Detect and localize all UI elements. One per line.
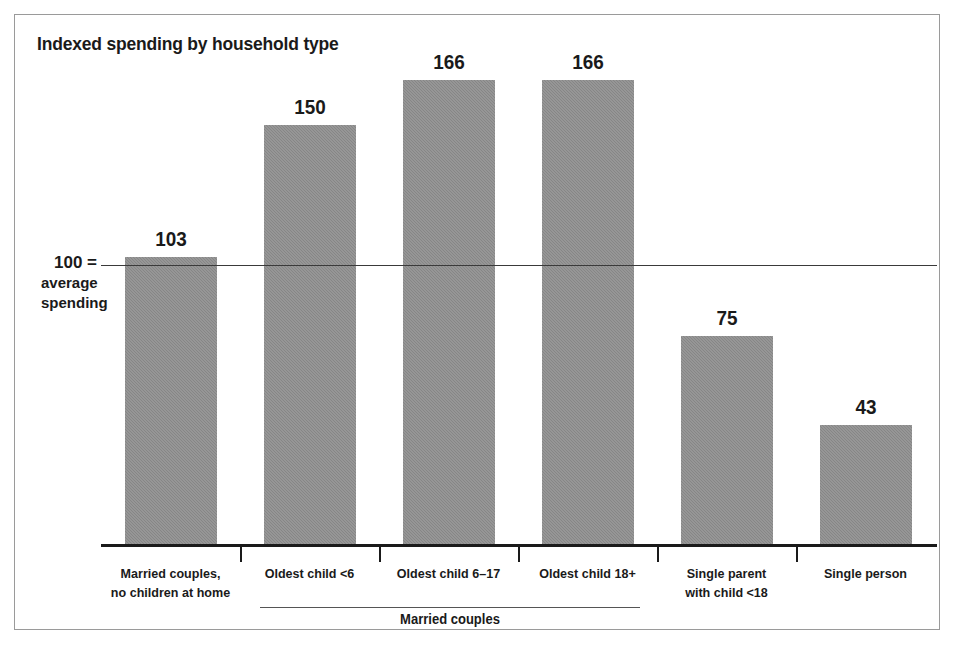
bar-single-parent[interactable] [681, 336, 773, 546]
bar-oldest-child-6-17[interactable] [403, 80, 495, 546]
axis-tick-4 [657, 547, 659, 562]
category-label-line: Single parent [662, 564, 791, 583]
axis-tick-5 [796, 547, 798, 562]
reference-label-line-2: average [41, 273, 97, 293]
reference-label-line-1: 100 = [41, 253, 97, 273]
category-label-married-no-children: Married couples, no children at home [106, 564, 235, 602]
bar-value-label: 43 [812, 395, 920, 419]
category-label-oldest-child-18-plus: Oldest child 18+ [523, 564, 652, 583]
reference-label-line-3: spending [41, 293, 97, 313]
axis-tick-3 [518, 547, 520, 562]
reference-line-label: 100 = average spending [41, 253, 97, 313]
bar-slot-2: 150 [240, 41, 379, 546]
bar-value-label: 166 [395, 50, 503, 74]
axis-tick-1 [240, 547, 242, 562]
bar-slot-3: 166 [379, 41, 518, 546]
bar-value-label: 166 [534, 50, 642, 74]
category-label-line: Oldest child <6 [245, 564, 374, 583]
category-label-line: Oldest child 18+ [523, 564, 652, 583]
reference-line-100 [101, 265, 937, 266]
axis-tick-2 [379, 547, 381, 562]
chart-frame: Indexed spending by household type 103 1… [14, 14, 940, 630]
bar-married-no-children[interactable] [125, 257, 217, 546]
group-bracket-line [260, 607, 640, 608]
bar-oldest-child-under-6[interactable] [264, 125, 356, 546]
bar-oldest-child-18-plus[interactable] [542, 80, 634, 546]
bar-slot-4: 166 [518, 41, 657, 546]
bar-single-person[interactable] [820, 425, 912, 546]
group-bracket-label: Married couples [273, 611, 626, 627]
category-label-line: Oldest child 6–17 [384, 564, 513, 583]
bar-value-label: 103 [117, 227, 225, 251]
category-label-single-parent: Single parent with child <18 [662, 564, 791, 602]
bar-value-label: 75 [673, 306, 781, 330]
category-label-line: Married couples, [106, 564, 235, 583]
category-label-oldest-child-6-17: Oldest child 6–17 [384, 564, 513, 583]
plot-area: 103 150 166 166 75 43 [101, 41, 933, 546]
category-label-line: Single person [801, 564, 930, 583]
category-label-single-person: Single person [801, 564, 930, 583]
category-label-oldest-child-under-6: Oldest child <6 [245, 564, 374, 583]
bar-value-label: 150 [256, 95, 364, 119]
bar-slot-5: 75 [657, 41, 796, 546]
bar-slot-6: 43 [796, 41, 935, 546]
category-label-line: with child <18 [662, 583, 791, 602]
category-label-line: no children at home [106, 583, 235, 602]
bar-slot-1: 103 [101, 41, 240, 546]
